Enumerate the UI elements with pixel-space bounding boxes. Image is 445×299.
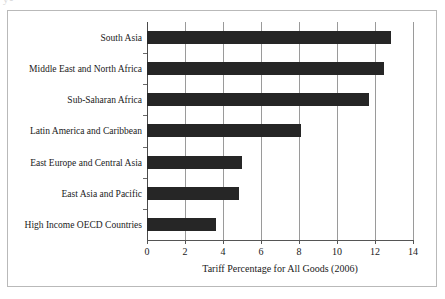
bar-row [147,178,413,209]
bar [147,218,216,231]
x-tick-label: 2 [170,246,200,257]
x-tick-label: 8 [284,246,314,257]
x-tick-label: 4 [208,246,238,257]
x-tick-mark [299,240,300,244]
x-tick-mark [147,240,148,244]
x-tick-label: 12 [360,246,390,257]
bar-row [147,115,413,146]
bar [147,124,301,137]
category-label: High Income OECD Countries [2,220,142,230]
bar-row [147,84,413,115]
x-tick-mark [261,240,262,244]
category-label: Latin America and Caribbean [2,126,142,136]
category-label: East Asia and Pacific [2,189,142,199]
category-label: Middle East and North Africa [2,64,142,74]
bar-row [147,22,413,53]
bar [147,31,391,44]
page-text-fragment: y- [3,0,14,5]
x-tick-label: 6 [246,246,276,257]
bar [147,187,239,200]
bar-row [147,209,413,240]
x-tick-mark [185,240,186,244]
bar [147,93,369,106]
plot-area [147,22,413,240]
category-label: South Asia [2,33,142,43]
bar [147,62,384,75]
category-label: East Europe and Central Asia [2,158,142,168]
x-tick-label: 0 [132,246,162,257]
bar [147,156,242,169]
bar-row [147,147,413,178]
x-axis-line [147,240,414,241]
x-tick-label: 10 [322,246,352,257]
gridline [413,22,414,240]
x-tick-mark [337,240,338,244]
x-axis-title: Tariff Percentage for All Goods (2006) [147,263,413,274]
bar-row [147,53,413,84]
x-tick-label: 14 [398,246,428,257]
category-axis-labels: South AsiaMiddle East and North AfricaSu… [0,22,142,240]
x-tick-mark [223,240,224,244]
category-label: Sub-Saharan Africa [2,95,142,105]
x-tick-mark [413,240,414,244]
x-tick-mark [375,240,376,244]
